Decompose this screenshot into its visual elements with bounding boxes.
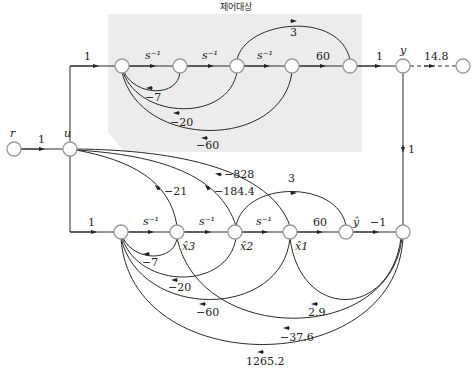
node-obs-yhat: [339, 225, 353, 239]
gain-y-to-observer: 1: [408, 143, 415, 156]
node-plant-3: [230, 59, 244, 73]
node-plant-5: [343, 59, 357, 73]
gain-obs-k2: −184.4: [214, 185, 255, 198]
gain-obs-fb-20: −20: [168, 281, 191, 294]
node-plant-1: [115, 59, 129, 73]
gain-obs-k3: −21: [164, 185, 187, 198]
gain-r-to-u: 1: [38, 133, 45, 146]
label-r: r: [10, 127, 16, 140]
label-yhat: ŷ: [352, 216, 360, 229]
node-output-branch: [456, 59, 470, 73]
gain-obs-60: 60: [313, 216, 327, 229]
gain-plant-input: 1: [84, 50, 91, 63]
gain-obs-ff: 3: [288, 172, 295, 185]
signal-flow-graph: 제어대상 1 s⁻¹ s⁻¹ s⁻¹ 60 1 3 −7 −20 −60 14.…: [0, 0, 476, 370]
gain-obs-s1: s⁻¹: [143, 215, 159, 228]
gain-output-branch: 14.8: [424, 50, 449, 63]
node-obs-x3: [170, 225, 184, 239]
label-y: y: [399, 44, 407, 57]
gain-plant-s2: s⁻¹: [202, 49, 218, 62]
node-plant-4: [285, 59, 299, 73]
node-obs-x1: [283, 225, 297, 239]
gain-obs-s3: s⁻¹: [256, 215, 272, 228]
gain-obs-k1: −828: [224, 168, 254, 181]
plant-region: [108, 14, 362, 152]
label-x3: x̂3: [182, 240, 195, 253]
gain-plant-s1: s⁻¹: [145, 49, 161, 62]
node-obs-error: [396, 225, 410, 239]
label-x1: x̂1: [295, 240, 308, 253]
gain-obs-fb-60: −60: [196, 306, 219, 319]
gain-plant-fb-60: −60: [196, 139, 219, 152]
gain-obs-l3: 1265.2: [246, 355, 285, 368]
gain-observer-input: 1: [88, 216, 95, 229]
gain-obs-l2: −37.6: [280, 331, 314, 344]
gain-plant-60: 60: [316, 50, 330, 63]
plant-title: 제어대상: [220, 2, 252, 12]
node-r: [7, 142, 21, 156]
node-plant-2: [173, 59, 187, 73]
gain-obs-neg1: −1: [370, 216, 386, 229]
gain-obs-fb-7: −7: [142, 256, 158, 269]
gain-plant-s3: s⁻¹: [257, 49, 273, 62]
gain-plant-output: 1: [376, 50, 383, 63]
gain-plant-ff: 3: [290, 26, 297, 39]
node-obs-x2: [228, 225, 242, 239]
gain-obs-s2: s⁻¹: [199, 215, 215, 228]
node-y: [396, 59, 410, 73]
node-obs-1: [114, 225, 128, 239]
label-u: u: [64, 127, 71, 140]
node-u: [63, 142, 77, 156]
label-x2: x̂2: [240, 240, 253, 253]
